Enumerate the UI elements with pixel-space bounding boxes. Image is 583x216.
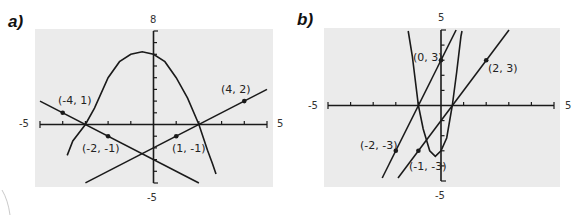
panel-b-label: b) — [297, 10, 313, 29]
y-min-label: -5 — [435, 190, 445, 201]
x-max-label: 5 — [565, 100, 571, 111]
x-max-label: 5 — [277, 118, 283, 129]
point-label: (1, -1) — [172, 142, 206, 155]
point-label: (-1, -3) — [409, 160, 447, 173]
point-label: (2, 3) — [488, 62, 518, 75]
y-min-label: -5 — [147, 192, 157, 203]
stray-mark — [2, 190, 10, 215]
point-label: (-2, -1) — [82, 142, 120, 155]
point-label: (4, 2) — [221, 83, 251, 96]
y-max-label: 8 — [150, 14, 156, 25]
panel-a: a) — [8, 12, 283, 203]
y-max-label: 5 — [438, 12, 444, 23]
point-label: (0, 3) — [413, 51, 443, 64]
x-min-label: -5 — [19, 118, 29, 129]
x-min-label: -5 — [308, 100, 318, 111]
point-label: (-2, -3) — [360, 139, 398, 152]
figure: a) — [0, 0, 583, 216]
panel-a-label: a) — [8, 12, 23, 31]
panel-b: b) — [297, 10, 571, 201]
point-label: (-4, 1) — [58, 94, 92, 107]
